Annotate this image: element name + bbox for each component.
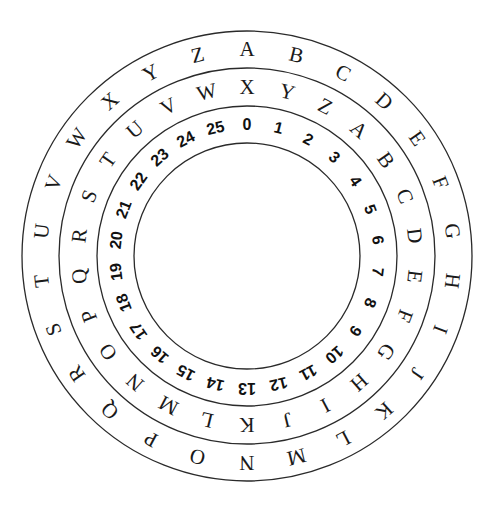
- middle-letter-g: G: [372, 339, 400, 365]
- outer-letter-s: S: [40, 320, 67, 339]
- middle-letter-d: D: [402, 227, 428, 245]
- middle-letter-o: O: [94, 339, 122, 365]
- inner-number-1: 1: [272, 118, 285, 137]
- outer-letter-o: O: [187, 444, 207, 471]
- outer-letter-v: V: [40, 171, 68, 194]
- middle-letter-f: F: [392, 306, 419, 325]
- outer-letter-j: J: [405, 363, 429, 383]
- middle-letter-v: V: [156, 92, 181, 120]
- inner-number-17: 17: [126, 319, 150, 343]
- middle-letter-p: P: [76, 306, 103, 325]
- outer-letter-t: T: [29, 273, 54, 289]
- inner-number-2: 2: [300, 130, 316, 149]
- middle-letter-h: H: [345, 368, 372, 396]
- outer-letter-m: M: [284, 443, 308, 471]
- inner-ring-numbers: 0123456789101112131415161718192021222324…: [106, 116, 387, 397]
- middle-letter-s: S: [76, 186, 103, 205]
- inner-number-9: 9: [346, 323, 365, 340]
- middle-letter-n: N: [121, 368, 148, 396]
- inner-number-25: 25: [205, 117, 226, 138]
- inner-number-10: 10: [322, 343, 347, 368]
- outer-letter-q: Q: [96, 397, 123, 425]
- inner-number-14: 14: [205, 374, 226, 395]
- inner-number-22: 22: [126, 169, 150, 193]
- inner-number-3: 3: [326, 148, 344, 167]
- outer-letter-x: X: [96, 87, 123, 115]
- center-circle-border: [134, 143, 360, 369]
- cipher-wheel: ABCDEFGHIJKLMNOPQRSTUVWXYZ XYZABCDEFGHIJ…: [0, 0, 488, 512]
- inner-ring-border: [97, 106, 397, 406]
- middle-letter-b: B: [372, 147, 400, 172]
- middle-letter-w: W: [194, 78, 219, 106]
- inner-number-24: 24: [174, 127, 198, 150]
- inner-number-23: 23: [147, 145, 172, 170]
- inner-number-11: 11: [297, 361, 320, 384]
- middle-letter-m: M: [154, 390, 182, 420]
- outer-letter-g: G: [440, 222, 466, 240]
- outer-letter-e: E: [404, 126, 431, 150]
- middle-letter-y: Y: [277, 78, 297, 105]
- middle-letter-j: J: [281, 407, 295, 432]
- middle-letter-l: L: [197, 407, 215, 433]
- outer-letter-y: Y: [139, 59, 164, 87]
- inner-number-16: 16: [147, 342, 172, 367]
- middle-letter-z: Z: [314, 93, 337, 120]
- middle-letter-k: K: [239, 413, 254, 437]
- middle-letter-c: C: [391, 185, 418, 207]
- inner-number-19: 19: [106, 262, 125, 282]
- inner-number-6: 6: [369, 235, 387, 246]
- outer-letter-k: K: [371, 397, 398, 425]
- outer-letter-p: P: [140, 426, 162, 453]
- middle-letter-a: A: [345, 115, 373, 144]
- outer-letter-z: Z: [188, 42, 206, 68]
- outer-letter-w: W: [61, 123, 92, 153]
- outer-letter-h: H: [440, 272, 466, 290]
- outer-letter-c: C: [331, 59, 355, 87]
- inner-number-15: 15: [174, 361, 198, 384]
- inner-number-8: 8: [361, 296, 380, 310]
- middle-letter-e: E: [402, 269, 427, 285]
- outer-letter-i: I: [428, 322, 453, 337]
- outer-letter-n: N: [239, 451, 254, 475]
- middle-letter-u: U: [121, 115, 148, 143]
- inner-number-4: 4: [346, 173, 365, 190]
- outer-letter-r: R: [63, 361, 91, 386]
- outer-letter-l: L: [332, 426, 355, 453]
- inner-number-18: 18: [112, 291, 134, 314]
- outer-letter-f: F: [427, 173, 454, 192]
- inner-number-13: 13: [238, 380, 256, 397]
- outer-letter-u: U: [29, 222, 55, 240]
- inner-number-12: 12: [268, 374, 289, 395]
- middle-letter-r: R: [66, 227, 92, 244]
- inner-number-5: 5: [361, 202, 380, 216]
- inner-number-7: 7: [369, 266, 387, 277]
- middle-letter-i: I: [317, 393, 334, 418]
- middle-letter-q: Q: [66, 267, 92, 285]
- outer-letter-a: A: [239, 37, 255, 61]
- middle-letter-x: X: [239, 75, 254, 99]
- outer-letter-d: D: [371, 87, 398, 115]
- inner-number-21: 21: [112, 198, 134, 221]
- middle-letter-t: T: [94, 148, 121, 172]
- outer-ring-letters: ABCDEFGHIJKLMNOPQRSTUVWXYZ: [29, 37, 466, 475]
- inner-number-0: 0: [243, 116, 252, 133]
- inner-number-20: 20: [106, 230, 125, 250]
- outer-letter-b: B: [287, 42, 306, 69]
